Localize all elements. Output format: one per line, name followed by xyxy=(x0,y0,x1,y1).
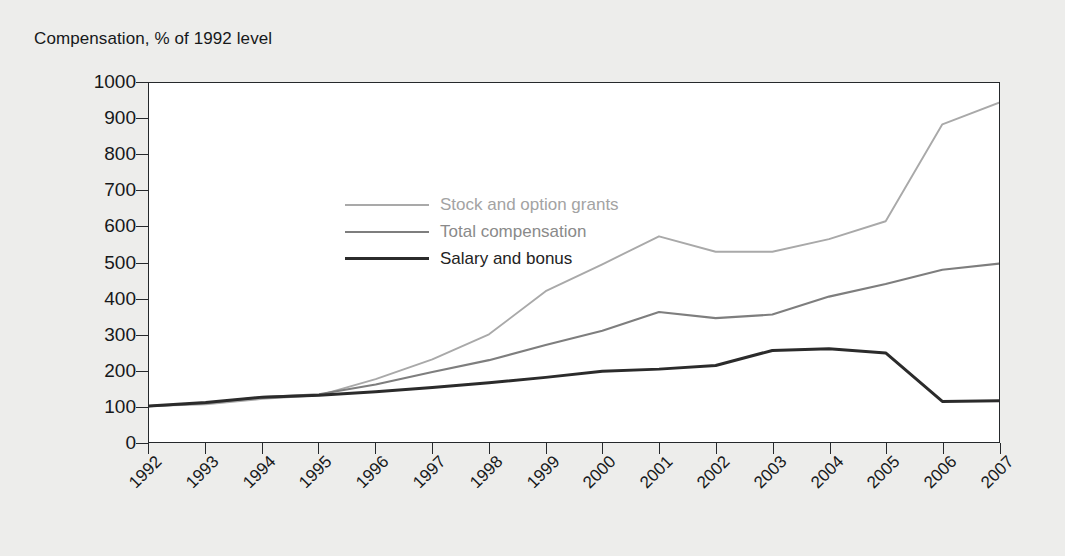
x-axis-tick-mark xyxy=(262,443,263,454)
x-axis-tick-mark xyxy=(1000,443,1001,454)
x-axis-tick-mark xyxy=(716,443,717,454)
y-axis-tick-mark xyxy=(136,190,148,191)
y-axis-tick-mark xyxy=(136,226,148,227)
x-axis-tick-label: 2000 xyxy=(570,452,621,503)
y-axis-tick-label: 900 xyxy=(104,107,136,129)
x-axis-tick-mark xyxy=(886,443,887,454)
x-axis-tick-mark xyxy=(943,443,944,454)
x-axis-tick-mark xyxy=(148,443,149,454)
x-axis-tick-label: 2001 xyxy=(626,452,677,503)
y-axis-tick-label: 0 xyxy=(125,432,136,454)
x-axis-tick-label: 1997 xyxy=(399,452,450,503)
x-axis-tick-label: 2003 xyxy=(740,452,791,503)
legend-swatch-icon xyxy=(345,231,429,233)
compensation-line-chart: Compensation, % of 1992 level 0100200300… xyxy=(0,0,1065,556)
y-axis-tick-label: 700 xyxy=(104,179,136,201)
series-line xyxy=(149,264,999,407)
x-axis-tick-label: 2006 xyxy=(910,452,961,503)
y-axis-tick-mark xyxy=(136,443,148,444)
x-axis-tick-label: 2002 xyxy=(683,452,734,503)
x-axis-tick-label: 2007 xyxy=(967,452,1018,503)
plot-area: Stock and option grants Total compensati… xyxy=(148,82,1000,443)
y-axis-tick-mark xyxy=(136,371,148,372)
x-axis-tick-mark xyxy=(318,443,319,454)
x-axis-tick-mark xyxy=(205,443,206,454)
y-axis-tick-mark xyxy=(136,263,148,264)
legend-label: Salary and bonus xyxy=(440,249,572,269)
x-axis-tick-label: 1995 xyxy=(286,452,337,503)
x-axis-tick-mark xyxy=(432,443,433,454)
y-axis-tick-label: 400 xyxy=(104,288,136,310)
x-axis-tick-mark xyxy=(659,443,660,454)
legend-swatch-icon xyxy=(345,257,429,260)
legend-item-stock-and-option-grants: Stock and option grants xyxy=(345,191,619,218)
x-axis-tick-mark xyxy=(602,443,603,454)
x-axis-tick-label: 2004 xyxy=(797,452,848,503)
y-axis-tick-label: 200 xyxy=(104,360,136,382)
y-axis-tick-label: 1000 xyxy=(94,71,136,93)
y-axis-tick-label: 500 xyxy=(104,252,136,274)
y-axis-labels: 01002003004005006007008009001000 xyxy=(32,0,136,556)
x-axis-tick-label: 1996 xyxy=(342,452,393,503)
y-axis-tick-mark xyxy=(136,335,148,336)
y-axis-tick-mark xyxy=(136,154,148,155)
y-axis-tick-label: 100 xyxy=(104,396,136,418)
x-axis-tick-label: 2005 xyxy=(854,452,905,503)
legend-swatch-icon xyxy=(345,204,429,206)
y-axis-tick-label: 600 xyxy=(104,215,136,237)
x-axis-tick-mark xyxy=(375,443,376,454)
y-axis-tick-mark xyxy=(136,118,148,119)
x-axis-tick-label: 1999 xyxy=(513,452,564,503)
legend-item-total-compensation: Total compensation xyxy=(345,218,619,245)
legend-label: Total compensation xyxy=(440,222,586,242)
series-line xyxy=(149,349,999,406)
x-axis-tick-label: 1993 xyxy=(172,452,223,503)
legend-label: Stock and option grants xyxy=(440,195,619,215)
y-axis-tick-mark xyxy=(136,299,148,300)
x-axis-tick-mark xyxy=(773,443,774,454)
y-axis-tick-mark xyxy=(136,82,148,83)
x-axis-tick-mark xyxy=(489,443,490,454)
y-axis-tick-mark xyxy=(136,407,148,408)
x-axis-tick-mark xyxy=(546,443,547,454)
x-axis-tick-label: 1994 xyxy=(229,452,280,503)
chart-legend: Stock and option grants Total compensati… xyxy=(345,191,619,272)
x-axis-tick-label: 1998 xyxy=(456,452,507,503)
y-axis-tick-label: 800 xyxy=(104,143,136,165)
legend-item-salary-and-bonus: Salary and bonus xyxy=(345,245,619,272)
y-axis-tick-label: 300 xyxy=(104,324,136,346)
x-axis-tick-mark xyxy=(830,443,831,454)
